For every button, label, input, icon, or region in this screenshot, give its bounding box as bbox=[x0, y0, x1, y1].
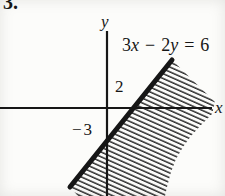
y-axis-label: y bbox=[101, 13, 109, 30]
coordinate-plane bbox=[0, 0, 225, 196]
equation-equals: = bbox=[184, 36, 194, 54]
equation-minus: − bbox=[145, 36, 155, 54]
equation-term2: 2y bbox=[161, 36, 178, 54]
x-axis-label: x bbox=[215, 99, 223, 116]
y-intercept-label: −3 bbox=[72, 121, 94, 138]
problem-number: 3. bbox=[3, 0, 18, 12]
equation-term1: 3x bbox=[122, 36, 139, 54]
equation-rhs: 6 bbox=[200, 36, 209, 54]
graph-figure: 3. y x 3x − 2y = 6 2 −3 bbox=[0, 0, 225, 196]
x-intercept-label: 2 bbox=[115, 78, 124, 95]
line-equation-label: 3x − 2y = 6 bbox=[122, 36, 209, 54]
